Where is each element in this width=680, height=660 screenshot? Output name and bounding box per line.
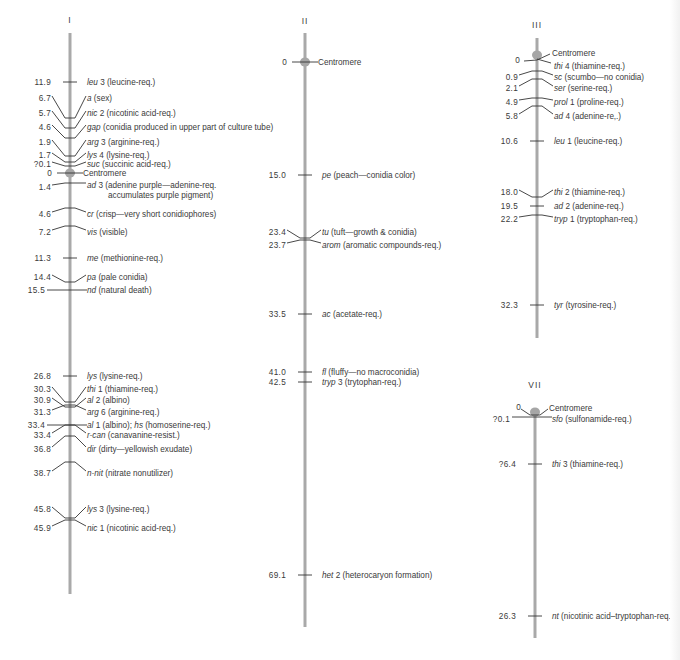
gene-symbol: arg xyxy=(87,408,99,417)
chromosome-label: I xyxy=(68,15,71,25)
locus-thi: 18.0thi 2 (thiamine-req.) xyxy=(501,188,625,197)
locus-position: 33.4 xyxy=(34,431,51,440)
gene-symbol: thi xyxy=(554,188,563,197)
gene-symbol: tryp xyxy=(322,378,336,387)
gene-description: (nicotinic acid-req.) xyxy=(104,109,176,118)
gene-description: (trytophan-req.) xyxy=(343,378,402,387)
chromosome-rod xyxy=(69,33,72,594)
gene-description-2: (homoserine-req.) xyxy=(143,421,211,430)
gene-description: (aromatic compounds-req.) xyxy=(341,241,442,250)
gene-description: (tyrosine-req.) xyxy=(563,301,617,310)
locus-sfo: ?0.1sfo (sulfonamide-req.) xyxy=(493,415,632,424)
locus-label: lys (lysine-req.) xyxy=(87,372,143,381)
locus-label: nd (natural death) xyxy=(87,286,152,295)
locus-vis: 7.2vis (visible) xyxy=(39,226,128,237)
gene-description: (succinic acid-req.) xyxy=(100,160,171,169)
locus-position: 4.6 xyxy=(39,123,51,132)
chromosome-rod xyxy=(534,410,537,638)
gene-symbol: leu xyxy=(87,78,98,87)
locus-label: r-can (canavanine-resist.) xyxy=(87,431,180,440)
gene-symbol: r-can xyxy=(87,431,106,440)
gene-description: (adenine-req.) xyxy=(570,202,624,211)
gene-description: (fluffy—no macroconidia) xyxy=(326,368,419,377)
locus-position: 69.1 xyxy=(269,571,286,580)
locus-position: 1.4 xyxy=(39,183,51,192)
locus-label: tu (tuft—growth & conidia) xyxy=(322,228,417,237)
centromere-position: 0 xyxy=(516,403,521,412)
chromosome-label: II xyxy=(302,16,309,26)
locus-label: fl (fluffy—no macroconidia) xyxy=(322,368,419,377)
gene-description: (nicotinic acid-req.) xyxy=(104,524,176,533)
locus-position: 38.7 xyxy=(34,469,51,478)
locus-pe: 15.0pe (peach—conidia color) xyxy=(269,171,416,180)
locus-pa: 14.4pa (pale conidia) xyxy=(34,273,148,282)
locus-label: sc (scumbo—no conidia) xyxy=(554,73,644,82)
chromosome-vii: VII0Centromere?0.1sfo (sulfonamide-req.)… xyxy=(493,380,674,638)
locus-nnit: 38.7n-nit (nitrate nonutilizer) xyxy=(34,462,173,478)
locus-position: ?0.1 xyxy=(493,415,510,424)
locus-label: ad 2 (adenine-req.) xyxy=(554,202,624,211)
chromosome-i: I0Centromere11.9leu 3 (leucine-req.)6.7a… xyxy=(28,15,274,594)
locus-fl: 41.0fl (fluffy—no macroconidia) xyxy=(269,368,420,377)
locus-position: 30.9 xyxy=(34,396,51,405)
gene-symbol: ac xyxy=(322,310,331,319)
gene-description: (adenine-re‚.) xyxy=(570,112,621,121)
gene-symbol: sc xyxy=(554,73,562,82)
locus-position: 23.4 xyxy=(269,228,286,237)
locus-position: 33.5 xyxy=(269,310,286,319)
gene-symbol: lys xyxy=(87,372,97,381)
gene-description: (visible) xyxy=(97,228,128,237)
gene-symbol: nic xyxy=(87,524,97,533)
locus-cr: 4.6cr (crisp—very short conidiophores) xyxy=(39,208,217,219)
gene-symbol: suc xyxy=(87,160,100,169)
genetic-linkage-map: I0Centromere11.9leu 3 (leucine-req.)6.7a… xyxy=(0,0,680,660)
locus-label: ad 3 (adenine purple—adenine-req. xyxy=(87,181,216,190)
centromere: 0Centromere xyxy=(47,169,127,179)
locus-thi: ?6.4thi 3 (thiamine-req.) xyxy=(499,460,623,469)
gene-symbol: lys xyxy=(87,151,97,160)
locus-position: 45.9 xyxy=(34,524,51,533)
gene-description: (albino); xyxy=(100,421,134,430)
linkage-map-svg: I0Centromere11.9leu 3 (leucine-req.)6.7a… xyxy=(0,0,680,660)
locus-me: 11.3me (methionine-req.) xyxy=(34,254,163,263)
chromosome-iii: III0Centromerethi 4 (thiamine-req.)0.9sc… xyxy=(501,20,645,338)
locus-label: thi 3 (thiamine-req.) xyxy=(552,460,623,469)
gene-description: (crisp—very short conidiophores) xyxy=(94,210,217,219)
gene-description: (pale conidia) xyxy=(96,273,148,282)
locus-het: 69.1het 2 (heterocaryon formation) xyxy=(269,571,433,580)
gene-description: (nicotinic acid–tryptophan-req.) xyxy=(559,612,674,621)
locus-label: ad 4 (adenine-re‚.) xyxy=(554,112,621,121)
gene-symbol-2: hs xyxy=(134,421,143,430)
locus-label: al 1 (albino); hs (homoserine-req.) xyxy=(87,421,211,430)
centromere: 0Centromere xyxy=(282,58,362,68)
locus-position: 15.0 xyxy=(269,171,286,180)
locus-position: 23.7 xyxy=(269,241,286,250)
locus-leu: 10.6leu 1 (leucine-req.) xyxy=(501,137,623,146)
locus-position: 26.3 xyxy=(499,612,516,621)
chromosome-rod xyxy=(536,38,539,338)
chromosome-ii: II0Centromere15.0pe (peach—conidia color… xyxy=(269,16,442,627)
centromere-label: Centromere xyxy=(83,169,127,178)
locus-label: pe (peach—conidia color) xyxy=(321,171,416,180)
locus-label: pa (pale conidia) xyxy=(86,273,148,282)
locus-tryp: 22.2tryp 1 (tryptophan-req.) xyxy=(501,215,638,224)
locus-arom: 23.7arom (aromatic compounds-req.) xyxy=(269,240,442,250)
gene-description: (leucine-req.) xyxy=(105,78,156,87)
locus-label: arg 6 (arginine-req.) xyxy=(87,408,160,417)
locus-position: 4.6 xyxy=(39,210,51,219)
gene-description: (sex) xyxy=(92,94,113,103)
locus-position: 19.5 xyxy=(501,202,518,211)
gene-description: (peach—conidia color) xyxy=(331,171,415,180)
gene-description: (lysine-req.) xyxy=(104,151,150,160)
gene-description: (serine-req.) xyxy=(565,84,612,93)
gene-symbol: ad xyxy=(87,181,97,190)
locus-position: 5.7 xyxy=(39,109,51,118)
locus-position: 7.2 xyxy=(39,228,51,237)
centromere-position: 0 xyxy=(282,58,287,67)
locus-label: arg 3 (arginine-req.) xyxy=(87,138,160,147)
gene-description: (tuft—growth & conidia) xyxy=(329,228,417,237)
locus-label: dir (dirty—yellowish exudate) xyxy=(87,445,192,454)
locus-label: al 2 (albino) xyxy=(87,396,130,405)
gene-description: (lysine-req.) xyxy=(104,505,150,514)
locus-label: tryp 3 (trytophan-req.) xyxy=(322,378,401,387)
